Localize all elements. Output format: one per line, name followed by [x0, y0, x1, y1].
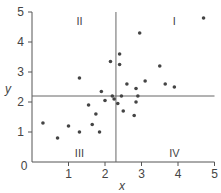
data-point	[134, 100, 138, 104]
data-point	[202, 16, 206, 20]
data-point	[98, 130, 102, 134]
data-point	[143, 79, 147, 83]
data-point	[109, 60, 113, 64]
x-tick-label: 4	[175, 167, 182, 181]
y-tick-label: 3	[17, 65, 24, 79]
data-point	[163, 82, 167, 86]
x-tick-label: 5	[211, 167, 218, 181]
data-point	[103, 99, 107, 103]
quadrant-dividers	[32, 12, 215, 162]
y-tick-label: 1	[17, 125, 24, 139]
data-point	[134, 87, 138, 91]
data-point	[78, 76, 82, 80]
x-tick-label: 3	[138, 167, 145, 181]
data-point	[121, 109, 125, 113]
data-point	[56, 136, 60, 140]
data-point	[41, 121, 45, 125]
data-point	[125, 82, 129, 86]
data-point	[118, 52, 122, 56]
data-point	[78, 130, 82, 134]
y-axis-label: y	[4, 82, 12, 96]
x-tick-label: 1	[65, 167, 72, 181]
data-point	[112, 97, 116, 101]
data-point	[87, 103, 91, 107]
data-point	[118, 63, 122, 67]
quadrant-labels: IIIIIIIV	[75, 15, 180, 159]
data-point	[116, 102, 120, 106]
y-tick-label: 4	[17, 35, 24, 49]
x-tick-label: 0	[21, 159, 28, 173]
quadrant-label: III	[75, 147, 84, 159]
data-point	[158, 64, 162, 68]
axes: 01234512345	[17, 5, 218, 181]
data-point	[67, 124, 71, 128]
data-point	[94, 112, 98, 116]
data-point	[111, 94, 115, 98]
y-tick-label: 2	[17, 95, 24, 109]
data-point	[173, 85, 177, 89]
data-point	[100, 90, 104, 94]
x-tick-label: 2	[102, 167, 109, 181]
quadrant-label: II	[76, 15, 82, 27]
scatter-chart: 01234512345 IIIIIIIV x y	[0, 0, 221, 193]
data-point	[136, 94, 140, 98]
data-point	[132, 114, 136, 118]
data-point	[90, 123, 94, 127]
data-point	[120, 94, 124, 98]
y-tick-label: 5	[17, 5, 24, 19]
quadrant-label: IV	[169, 147, 180, 159]
x-axis-label: x	[118, 179, 126, 193]
quadrant-label: I	[173, 15, 176, 27]
data-points	[41, 16, 205, 140]
data-point	[138, 31, 142, 35]
